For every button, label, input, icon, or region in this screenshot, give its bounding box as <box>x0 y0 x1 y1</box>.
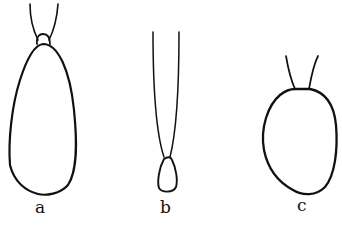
panel-a-body <box>9 44 76 195</box>
panel-c-label: c <box>297 197 307 214</box>
panel-c-stalk-right <box>309 56 318 89</box>
panel-b-stalk-left <box>153 32 164 157</box>
panel-a-stalk-right <box>49 4 58 40</box>
panel-c-drawing <box>263 56 337 194</box>
panel-b-body <box>158 157 177 191</box>
panel-a-cap <box>37 34 50 44</box>
panel-a-stalk-left <box>30 4 38 40</box>
panel-a-label: a <box>35 199 45 216</box>
panel-b-drawing <box>153 32 179 192</box>
figure-canvas <box>0 0 342 225</box>
panel-b-stalk-right <box>170 32 179 157</box>
panel-c-body <box>263 89 337 194</box>
panel-b-label: b <box>160 199 171 216</box>
panel-c-stalk-left <box>286 56 295 89</box>
panel-a-drawing <box>9 4 76 195</box>
